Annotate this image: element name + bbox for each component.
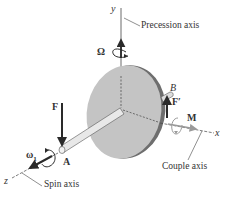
x-axis [160,123,214,160]
omega-precession-label: Ω [97,47,105,57]
y-axis-label: y [111,4,115,14]
disk [78,58,174,166]
force-prime-label: F′ [172,97,181,107]
gyroscope-diagram: y Precession axis Ω B F′ F M x ω1 A Coup… [0,0,229,200]
couple-axis-label: Couple axis [162,162,207,172]
spin-axis-label: Spin axis [44,180,79,190]
force-label: F [52,102,58,112]
precession-axis-label: Precession axis [141,21,199,31]
omega-spin-subscript: 1 [33,155,37,163]
moment-label: M [187,113,196,123]
point-b-label: B [170,83,176,93]
x-axis-label: x [215,128,219,138]
point-a-label: A [63,157,70,167]
omega-spin-label: ω1 [26,150,37,163]
z-axis-label: z [4,176,8,186]
